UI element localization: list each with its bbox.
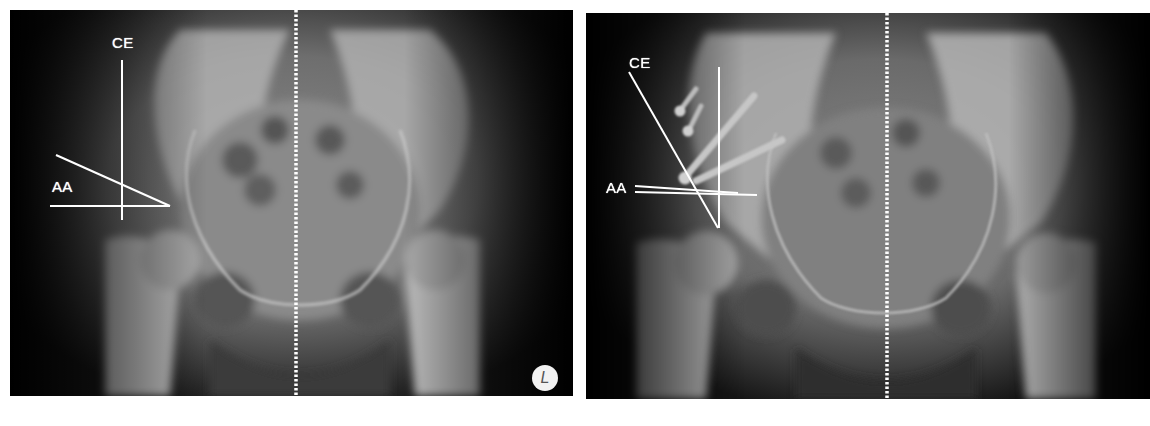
side-marker-l: L — [532, 365, 558, 391]
aa-label: AA — [606, 179, 627, 196]
xray-panel-right: CE AA — [586, 13, 1150, 399]
ce-label: CE — [112, 34, 133, 51]
ce-label: CE — [629, 54, 650, 71]
xray-panel-left: CE AA L — [10, 10, 573, 396]
pelvis-xray-right — [586, 13, 1150, 399]
pelvis-xray-left — [10, 10, 573, 396]
aa-label: AA — [52, 178, 73, 195]
